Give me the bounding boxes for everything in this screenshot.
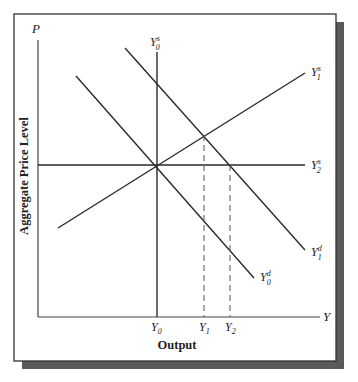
y-axis-title: Aggregate Price Level bbox=[17, 117, 31, 235]
y-axis-symbol: P bbox=[31, 21, 40, 36]
x-axis-title: Output bbox=[158, 338, 198, 352]
diagram-figure: P Y Aggregate Price Level Output Ys0 Ys1… bbox=[0, 0, 358, 382]
